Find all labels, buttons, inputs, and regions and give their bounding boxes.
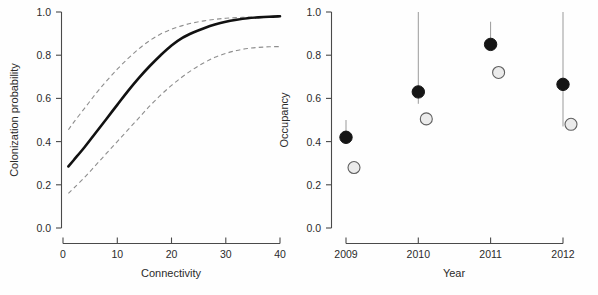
estimated-occupancy-point[interactable] (557, 78, 569, 90)
left-x-axis-title: Connectivity (141, 267, 201, 279)
right-x-label-2009: 2009 (334, 248, 358, 260)
colonization-panel: 1.0 0.8 0.6 0.4 0.2 0.0 0 10 20 30 40 Co… (0, 0, 300, 295)
right-x-label-2012: 2012 (551, 248, 575, 260)
occupancy-panel: 1.0 0.8 0.6 0.4 0.2 0.0 2009 2010 2011 2… (298, 0, 598, 295)
upper-confidence-band (68, 16, 280, 129)
estimated-occupancy-point[interactable] (412, 86, 424, 98)
right-y-label-1p0: 1.0 (306, 6, 321, 18)
left-y-label-0p0: 0.0 (36, 222, 51, 234)
naive-occupancy-point[interactable] (348, 162, 360, 174)
left-x-label-40: 40 (274, 248, 286, 260)
right-y-label-0p0: 0.0 (306, 222, 321, 234)
left-x-label-20: 20 (166, 248, 178, 260)
left-y-label-0p4: 0.4 (36, 136, 51, 148)
estimated-occupancy-point[interactable] (340, 131, 352, 143)
left-x-label-30: 30 (220, 248, 232, 260)
estimated-occupancy-point[interactable] (484, 38, 496, 50)
left-y-label-0p8: 0.8 (36, 49, 51, 61)
right-x-label-2010: 2010 (407, 248, 431, 260)
left-y-label-1p0: 1.0 (36, 6, 51, 18)
left-y-axis-title: Colonization probability (8, 63, 20, 177)
figure-canvas: 1.0 0.8 0.6 0.4 0.2 0.0 0 10 20 30 40 Co… (0, 0, 598, 295)
naive-occupancy-point[interactable] (420, 113, 432, 125)
fitted-colonization-curve (68, 16, 280, 166)
left-x-label-10: 10 (111, 248, 123, 260)
right-y-axis-title: Occupancy (278, 92, 290, 148)
right-x-label-2011: 2011 (479, 248, 502, 260)
right-y-label-0p2: 0.2 (306, 179, 321, 191)
left-y-label-0p2: 0.2 (36, 179, 51, 191)
right-y-label-0p8: 0.8 (306, 49, 321, 61)
naive-occupancy-point[interactable] (565, 118, 577, 130)
left-x-label-0: 0 (60, 248, 66, 260)
occupancy-plot: 1.0 0.8 0.6 0.4 0.2 0.0 2009 2010 2011 2… (298, 0, 598, 295)
right-y-label-0p6: 0.6 (306, 92, 321, 104)
left-y-label-0p6: 0.6 (36, 92, 51, 104)
occupancy-markers-group (340, 12, 577, 174)
lower-confidence-band (68, 47, 280, 194)
right-y-label-0p4: 0.4 (306, 136, 321, 148)
right-x-axis-title: Year (443, 267, 466, 279)
colonization-plot: 1.0 0.8 0.6 0.4 0.2 0.0 0 10 20 30 40 Co… (0, 0, 300, 295)
naive-occupancy-point[interactable] (493, 66, 505, 78)
